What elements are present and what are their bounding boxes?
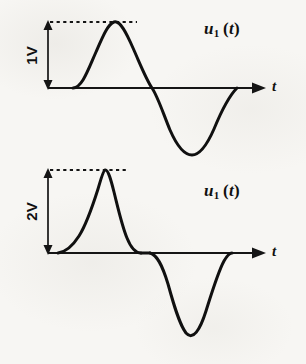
bottom-signal-label-open-paren: ( — [219, 181, 229, 200]
bottom-signal-label: u1 (t) — [204, 182, 240, 201]
bottom-negative-pulse — [150, 253, 232, 336]
bottom-signal-label-base: u — [204, 181, 214, 200]
waveform-figure: t u1 (t) 1V t u1 (t) 2V — [0, 0, 306, 364]
bottom-plot-graphics — [0, 0, 306, 364]
bottom-positive-pulse — [58, 170, 141, 253]
bottom-amplitude-label: 2V — [24, 195, 39, 229]
bottom-time-axis-arrowhead — [252, 248, 266, 259]
bottom-signal-label-close-paren: ) — [234, 181, 240, 200]
bottom-time-axis-label: t — [272, 244, 276, 259]
